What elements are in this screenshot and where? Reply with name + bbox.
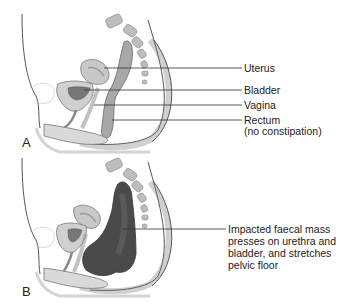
label-faecal-mass-line4: pelvic floor <box>228 260 278 271</box>
panel-a: Uterus Bladder Vagina Rectum (no constip… <box>0 0 359 154</box>
panel-b: Impacted faecal mass presses on urethra … <box>0 154 359 308</box>
uterus-shape <box>81 59 109 84</box>
label-faecal-mass-line1: Impacted faecal mass <box>228 224 330 235</box>
label-faecal-mass-line3: bladder, and stretches <box>228 248 331 259</box>
label-rectum-note: (no constipation) <box>244 126 322 137</box>
label-faecal-mass-line2: presses on urethra and <box>228 236 336 247</box>
label-vagina: Vagina <box>244 100 276 111</box>
panel-letter-a: A <box>22 135 31 150</box>
label-uterus: Uterus <box>244 63 275 74</box>
label-bladder: Bladder <box>244 85 280 96</box>
panel-letter-b: B <box>22 284 31 299</box>
